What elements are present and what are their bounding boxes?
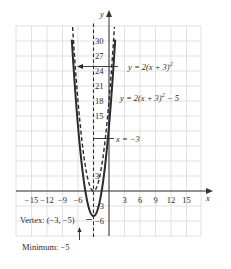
- axis-sym-label: x = −3: [115, 134, 140, 144]
- minimum-label: Minimum: −5: [22, 242, 70, 252]
- x-tick-label: 3: [122, 195, 126, 205]
- x-tick-label: −15: [25, 195, 38, 205]
- y-axis-arrowhead: [106, 10, 112, 17]
- y-tick-label: −6: [95, 216, 104, 226]
- x-tick-label: 6: [138, 195, 142, 205]
- x-tick-label: 12: [167, 195, 176, 205]
- y-axis-label: y: [99, 9, 104, 19]
- x-tick-label: −6: [73, 195, 82, 205]
- x-tick-label: 9: [153, 195, 157, 205]
- y-tick-label: 15: [95, 111, 104, 121]
- x-tick-label: −12: [40, 195, 53, 205]
- y-tick-label: 21: [95, 81, 104, 91]
- y-tick-label: 27: [95, 51, 104, 61]
- y-tick-label: 18: [95, 96, 104, 106]
- x-axis-label: x: [205, 193, 210, 203]
- y-tick-label: 3: [95, 171, 99, 181]
- eq2-label: y = 2(x + 3)2 − 5: [119, 92, 179, 103]
- vertex-label: Vertex: (−3, −5): [20, 215, 75, 225]
- y-tick-label: 30: [95, 36, 104, 46]
- y-tick-label: −3: [95, 201, 104, 211]
- eq1-label: y = 2(x + 3)2: [127, 61, 173, 72]
- x-tick-label: −9: [58, 195, 67, 205]
- x-tick-label: 15: [182, 195, 191, 205]
- parabola-graph: −15−12−9−636912153027242118153−3−6 y = 2…: [0, 0, 231, 269]
- y-tick-label: 24: [95, 66, 104, 76]
